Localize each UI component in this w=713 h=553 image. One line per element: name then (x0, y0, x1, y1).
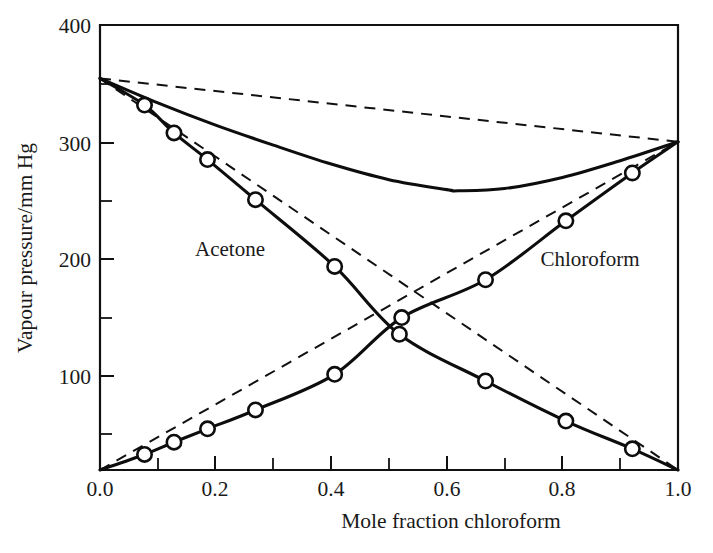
data-point-marker (248, 192, 262, 206)
x-tick-label-0-0: 0.0 (87, 477, 114, 501)
vapour-pressure-chart: 400 300 200 100 0.0 0.2 0.4 0.6 0.8 1.0 … (0, 0, 713, 553)
data-point-marker (478, 374, 492, 388)
data-point-marker (559, 414, 573, 428)
x-tick-label-0-2: 0.2 (202, 477, 229, 501)
y-tick-label-200: 200 (59, 248, 91, 272)
data-point-marker (559, 214, 573, 228)
data-point-marker (625, 166, 639, 180)
data-point-marker (167, 126, 181, 140)
ideal-total-pressure-dashed-line (100, 78, 678, 141)
data-point-marker (327, 367, 341, 381)
x-tick-label-1-0: 1.0 (665, 477, 692, 501)
x-tick-label-0-6: 0.6 (434, 477, 461, 501)
data-point-marker (248, 403, 262, 417)
data-point-marker (395, 310, 409, 324)
y-tick-label-400: 400 (59, 14, 91, 38)
data-point-marker (478, 273, 492, 287)
y-tick-label-300: 300 (59, 132, 91, 156)
data-point-marker (392, 327, 406, 341)
series-label-chloroform: Chloroform (540, 247, 639, 271)
data-point-marker (167, 435, 181, 449)
figure-container: 400 300 200 100 0.0 0.2 0.4 0.6 0.8 1.0 … (0, 0, 713, 553)
data-point-marker (327, 259, 341, 273)
data-point-marker (200, 422, 214, 436)
x-axis-minor-ticks (158, 458, 620, 470)
x-tick-label-0-4: 0.4 (318, 477, 345, 501)
data-point-marker (200, 152, 214, 166)
x-tick-label-0-8: 0.8 (549, 477, 576, 501)
y-axis-title: Vapour pressure/mm Hg (13, 143, 37, 353)
data-point-marker (137, 447, 151, 461)
series-label-acetone: Acetone (195, 237, 265, 261)
chloroform-raoult-dashed-line (100, 142, 678, 470)
data-point-marker (625, 442, 639, 456)
y-tick-label-100: 100 (59, 365, 91, 389)
x-axis-title: Mole fraction chloroform (341, 509, 561, 533)
total-vapour-pressure-curve (100, 78, 678, 191)
acetone-raoult-dashed-line (100, 78, 678, 470)
data-point-marker (137, 98, 151, 112)
acetone-data-markers (137, 98, 639, 456)
